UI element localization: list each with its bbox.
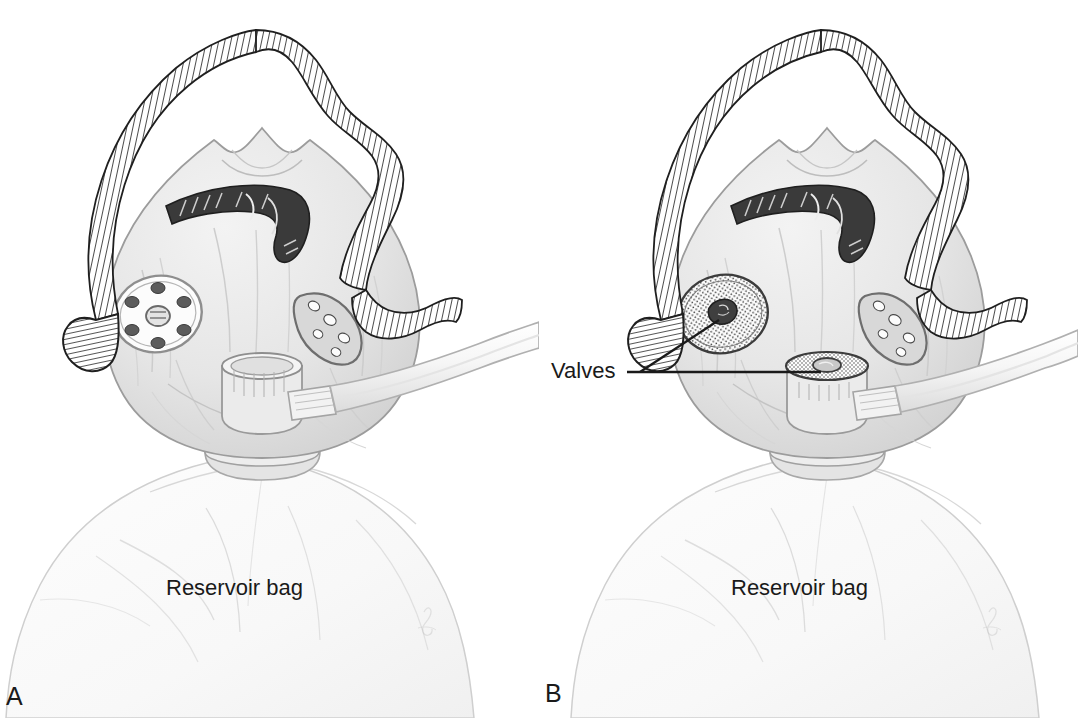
reservoir-bag-label: Reservoir bag xyxy=(731,577,868,599)
panel-letter-b: B xyxy=(545,681,562,706)
panel-b-illustration xyxy=(539,0,1078,718)
panel-a: Reservoir bag A xyxy=(0,0,539,718)
panel-letter-a: A xyxy=(6,684,23,709)
reservoir-bag-label: Reservoir bag xyxy=(166,577,303,599)
panel-b: Valves Reservoir bag B xyxy=(539,0,1078,718)
valves-label: Valves xyxy=(551,360,615,382)
panel-a-illustration xyxy=(0,0,539,718)
figure-oxygen-masks: Reservoir bag A xyxy=(0,0,1078,718)
center-valve xyxy=(786,352,868,380)
